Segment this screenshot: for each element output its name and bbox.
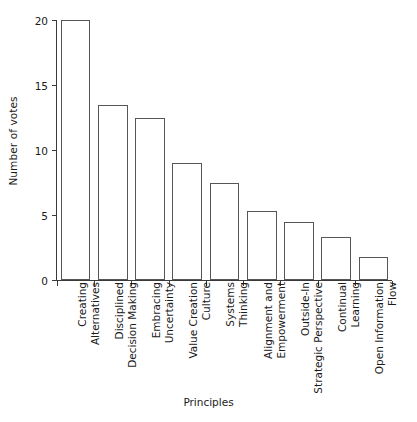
bar	[135, 118, 165, 281]
y-tick: 5	[52, 215, 57, 216]
x-tick-label: DisciplinedDecision Making	[94, 282, 131, 390]
bar	[247, 211, 277, 280]
x-tick-label: SystemsThinking	[206, 282, 243, 390]
bar	[61, 20, 91, 280]
bar	[359, 257, 389, 280]
x-tick-label-line1: Value Creation	[187, 282, 199, 359]
x-tick-label: ContinualLearning	[318, 282, 355, 390]
x-axis-title: Principles	[0, 396, 417, 408]
x-tick-label-line1: Alignment and	[262, 282, 274, 359]
y-tick-label: 10	[35, 145, 48, 157]
bar	[172, 163, 202, 280]
y-axis-title-text: Number of votes	[7, 96, 19, 185]
y-tick-label: 20	[35, 15, 48, 27]
bar	[210, 183, 240, 281]
x-tick-label: Open InformationFlow	[355, 282, 392, 390]
x-tick-label: Alignment andEmpowerment	[243, 282, 280, 390]
x-axis-line	[56, 280, 392, 281]
x-tick-label-line2: Flow	[386, 282, 399, 374]
x-axis-tick-labels: CreatingAlternativesDisciplinedDecision …	[57, 282, 392, 390]
x-tick-label-line1: Outside-In	[299, 282, 311, 336]
x-tick-label-line1: Systems	[224, 282, 236, 327]
plot-area: 05101520	[57, 20, 392, 280]
y-axis-title: Number of votes	[0, 0, 26, 282]
y-tick: 10	[52, 150, 57, 151]
x-tick-label-line1: Creating	[76, 282, 88, 327]
x-tick-label: EmbracingUncertainty	[131, 282, 168, 390]
y-tick-label: 0	[41, 275, 48, 287]
x-axis-title-text: Principles	[183, 396, 233, 408]
y-tick: 20	[52, 20, 57, 21]
x-tick-label-line1: Open Information	[373, 282, 385, 374]
bar	[98, 105, 128, 281]
y-tick-label: 5	[41, 210, 48, 222]
y-tick: 15	[52, 85, 57, 86]
x-tick-label-line1: Continual	[336, 282, 348, 332]
bar-chart: Number of votes 05101520 CreatingAlterna…	[0, 0, 417, 422]
x-tick-label: Outside-InStrategic Perspective	[280, 282, 317, 390]
x-tick-label-line1: Disciplined	[113, 282, 125, 339]
y-tick-label: 15	[35, 80, 48, 92]
x-tick-label-line1: Embracing	[150, 282, 162, 338]
x-tick-label: CreatingAlternatives	[57, 282, 94, 390]
x-tick-label: Value CreationCulture	[169, 282, 206, 390]
bar	[321, 237, 351, 280]
bar	[284, 222, 314, 281]
